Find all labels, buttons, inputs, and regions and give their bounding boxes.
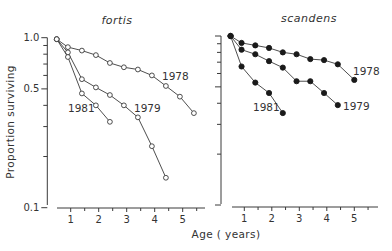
- series-label: 1979: [343, 100, 370, 112]
- data-point: [66, 45, 71, 50]
- data-point: [294, 79, 299, 84]
- data-point: [294, 52, 299, 57]
- x-tick-label: 3: [296, 213, 302, 224]
- series-label: 1979: [134, 102, 161, 114]
- data-point: [136, 67, 141, 72]
- data-point: [239, 40, 244, 45]
- data-point: [122, 103, 127, 108]
- series-label: 1981: [68, 102, 95, 114]
- y-axis-label: Proportion surviving: [4, 65, 16, 179]
- survival-chart-figure: Proportion surviving fortis scandens Age…: [0, 0, 392, 251]
- data-point: [352, 77, 357, 82]
- data-point: [308, 56, 313, 61]
- data-point: [228, 33, 233, 38]
- data-point: [266, 90, 271, 95]
- data-point: [108, 119, 113, 124]
- data-point: [253, 52, 258, 57]
- data-point: [266, 59, 271, 64]
- y-tick-label: 0.5: [23, 83, 39, 94]
- series-label: 1978: [353, 65, 380, 77]
- data-point: [164, 175, 169, 180]
- data-point: [108, 61, 113, 66]
- panel-fortis: 1.00.50.112345197819791981: [23, 32, 205, 225]
- y-tick-label: 0.1: [23, 202, 39, 213]
- data-point: [253, 80, 258, 85]
- data-point: [94, 53, 99, 58]
- data-point: [54, 37, 59, 42]
- data-point: [80, 91, 85, 96]
- data-point: [80, 77, 85, 82]
- panel-title-fortis: fortis: [101, 14, 132, 27]
- x-tick-label: 3: [124, 214, 130, 225]
- x-tick-label: 2: [269, 213, 275, 224]
- x-tick-label: 5: [351, 213, 357, 224]
- x-tick-label: 1: [241, 213, 247, 224]
- data-point: [108, 93, 113, 98]
- x-tick-label: 2: [96, 214, 102, 225]
- data-point: [66, 55, 71, 60]
- series-label: 1978: [162, 70, 189, 82]
- data-point: [280, 50, 285, 55]
- x-tick-label: 4: [152, 214, 158, 225]
- data-point: [164, 84, 169, 89]
- series-line: [231, 36, 355, 80]
- data-point: [239, 64, 244, 69]
- data-point: [192, 111, 197, 116]
- panel-scandens: 12345197819791981: [215, 33, 380, 224]
- x-tick-label: 1: [68, 214, 74, 225]
- x-axis-label: Age ( years): [192, 228, 261, 240]
- data-point: [335, 62, 340, 67]
- data-point: [150, 73, 155, 78]
- data-point: [321, 90, 326, 95]
- data-point: [136, 115, 141, 120]
- data-point: [335, 103, 340, 108]
- series-1978: 1978: [228, 33, 380, 82]
- data-point: [178, 94, 183, 99]
- data-point: [239, 47, 244, 52]
- data-point: [253, 43, 258, 48]
- data-point: [80, 48, 85, 53]
- data-point: [122, 65, 127, 70]
- data-point: [266, 45, 271, 50]
- x-tick-label: 4: [324, 213, 330, 224]
- data-point: [150, 144, 155, 149]
- panel-title-scandens: scandens: [281, 12, 337, 25]
- data-point: [94, 85, 99, 90]
- data-point: [280, 110, 285, 115]
- series-1979: 1979: [228, 33, 370, 112]
- y-tick-label: 1.0: [23, 32, 39, 43]
- series-label: 1981: [253, 101, 280, 113]
- data-point: [321, 58, 326, 63]
- data-point: [308, 79, 313, 84]
- x-tick-label: 5: [180, 214, 186, 225]
- data-point: [280, 65, 285, 70]
